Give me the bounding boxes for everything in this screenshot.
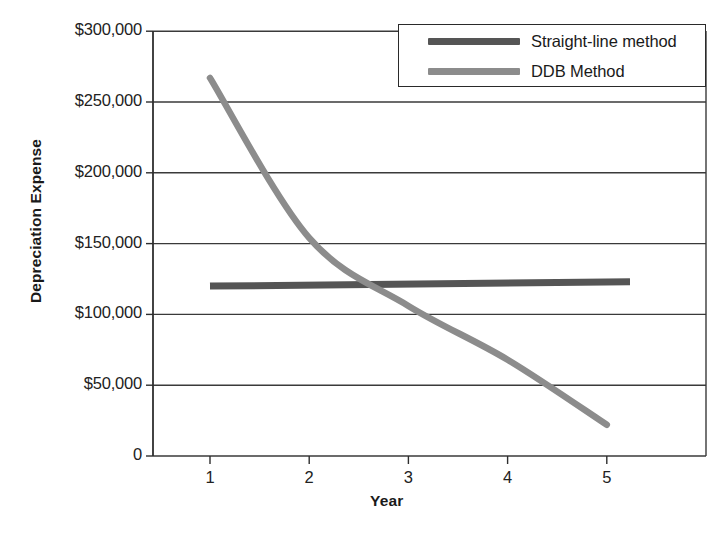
y-tick-label: $150,000: [12, 233, 142, 252]
depreciation-expense-chart: Depreciation Expense Year 0$50,000$100,0…: [0, 0, 728, 537]
legend-label-straight-line: Straight-line method: [531, 32, 677, 51]
y-tick-label: $50,000: [12, 374, 142, 393]
x-tick-label: 1: [190, 468, 230, 487]
chart-legend: Straight-line method DDB Method: [398, 24, 706, 87]
y-tick-label: $200,000: [12, 162, 142, 181]
axis-ticks: [146, 31, 607, 464]
y-tick-label: $250,000: [12, 91, 142, 110]
x-tick-label: 4: [488, 468, 528, 487]
legend-swatch-straight-line: [428, 38, 520, 45]
x-axis-title: Year: [370, 492, 404, 510]
x-tick-label: 2: [289, 468, 329, 487]
data-series: [210, 78, 630, 425]
legend-swatch-ddb: [428, 68, 520, 75]
gridlines: [153, 31, 706, 456]
legend-label-ddb: DDB Method: [531, 62, 624, 81]
y-tick-label: 0: [12, 445, 142, 464]
y-tick-label: $100,000: [12, 303, 142, 322]
y-tick-label: $300,000: [12, 20, 142, 39]
x-tick-label: 3: [388, 468, 428, 487]
legend-item-straight-line: Straight-line method: [399, 26, 677, 57]
legend-item-ddb: DDB Method: [399, 56, 624, 87]
x-tick-label: 5: [587, 468, 627, 487]
y-axis-title: Depreciation Expense: [27, 111, 45, 331]
